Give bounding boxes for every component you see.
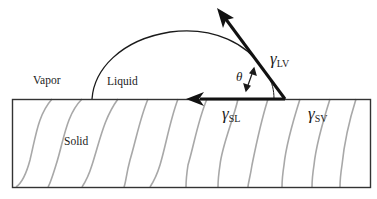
gamma-sl-subscript: SL [229, 113, 241, 124]
gamma-sv-symbol: γ [308, 104, 315, 123]
gamma-sl-symbol: γ [222, 104, 229, 123]
diagram-canvas [0, 0, 377, 199]
theta-label: θ [236, 70, 242, 83]
droplet-profile [92, 31, 285, 99]
gamma-sl-label: γSL [222, 105, 240, 124]
gamma-lv-subscript: LV [277, 58, 289, 69]
theta-double-arrow-icon [244, 68, 256, 91]
gamma-sl-arrow [186, 92, 285, 106]
gamma-lv-label: γLV [270, 50, 289, 69]
solid-label: Solid [64, 136, 88, 148]
gamma-sv-label: γSV [308, 105, 328, 124]
contact-angle-diagram: Vapor Liquid Solid θ γLV γSL γSV [0, 0, 377, 199]
vapor-label: Vapor [33, 75, 60, 87]
gamma-lv-symbol: γ [270, 49, 277, 68]
gamma-sv-subscript: SV [315, 113, 328, 124]
liquid-label: Liquid [107, 76, 138, 88]
